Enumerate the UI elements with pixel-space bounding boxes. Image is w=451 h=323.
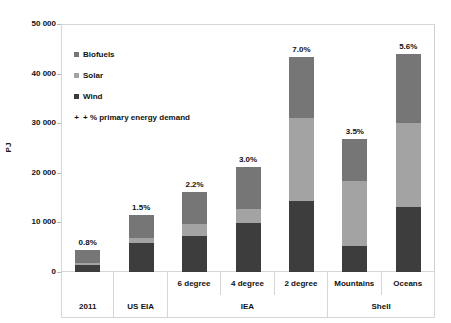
- bars-layer: 0.8%1.5%2.2%3.0%7.0%3.5%5.6%: [61, 24, 435, 272]
- x-axis-row-categories: 6 degree4 degree2 degreeMountainsOceans: [61, 272, 435, 295]
- bar-segment-biofuels: [75, 250, 100, 263]
- x-axis: 6 degree4 degree2 degreeMountainsOceans …: [61, 272, 435, 318]
- bar-segment-wind: [289, 201, 314, 272]
- bar-segment-biofuels: [289, 57, 314, 118]
- y-tick-label: 40 000: [0, 69, 56, 78]
- bar-value-label: 3.5%: [346, 127, 364, 136]
- y-tick-label: 0: [0, 267, 56, 276]
- bar-column: 7.0%: [289, 57, 314, 272]
- x-axis-group-2011: 2011: [61, 295, 114, 318]
- x-axis-category-4-degree: 4 degree: [221, 272, 274, 295]
- x-axis-category-empty: [114, 272, 167, 295]
- y-tick-label: 50 000: [0, 19, 56, 28]
- bar-value-label: 2.2%: [185, 180, 203, 189]
- bar-segment-solar: [236, 209, 261, 223]
- bar-column: 3.0%: [236, 167, 261, 272]
- bar-column: 0.8%: [75, 250, 100, 272]
- y-axis-title: PJ: [4, 143, 13, 153]
- x-axis-group-shell: Shell: [328, 295, 435, 318]
- bar-value-label: 7.0%: [292, 45, 310, 54]
- bar-segment-biofuels: [182, 192, 207, 225]
- bar-value-label: 1.5%: [132, 203, 150, 212]
- bar-value-label: 0.8%: [79, 238, 97, 247]
- y-tick-label: 20 000: [0, 168, 56, 177]
- bar-segment-wind: [396, 207, 421, 272]
- bar-segment-wind: [182, 236, 207, 272]
- bar-value-label: 5.6%: [399, 42, 417, 51]
- x-axis-group-us-eia: US EIA: [114, 295, 167, 318]
- x-axis-category-mountains: Mountains: [328, 272, 381, 295]
- x-axis-category-6-degree: 6 degree: [168, 272, 221, 295]
- bar-segment-biofuels: [129, 215, 154, 238]
- x-axis-row-groups: 2011US EIAIEAShell: [61, 295, 435, 318]
- bar-column: 5.6%: [396, 54, 421, 272]
- x-axis-category-oceans: Oceans: [382, 272, 435, 295]
- bar-segment-wind: [75, 265, 100, 272]
- bar-column: 1.5%: [129, 215, 154, 272]
- x-axis-group-iea: IEA: [168, 295, 328, 318]
- y-tick-label: 30 000: [0, 118, 56, 127]
- bar-segment-wind: [342, 246, 367, 272]
- y-tick-label: 10 000: [0, 217, 56, 226]
- x-axis-category-2-degree: 2 degree: [275, 272, 328, 295]
- bar-segment-biofuels: [396, 54, 421, 123]
- bar-segment-biofuels: [236, 167, 261, 209]
- bar-column: 2.2%: [182, 192, 207, 272]
- bar-segment-solar: [289, 118, 314, 201]
- bar-segment-biofuels: [342, 139, 367, 181]
- bar-value-label: 3.0%: [239, 155, 257, 164]
- bar-column: 3.5%: [342, 139, 367, 272]
- bar-segment-wind: [129, 243, 154, 272]
- bar-segment-solar: [396, 123, 421, 206]
- chart-container: PJ 010 00020 00030 00040 00050 000 Biofu…: [0, 0, 451, 323]
- bar-segment-wind: [236, 223, 261, 272]
- x-axis-category-empty: [61, 272, 114, 295]
- bar-segment-solar: [342, 181, 367, 246]
- bar-segment-solar: [182, 224, 207, 235]
